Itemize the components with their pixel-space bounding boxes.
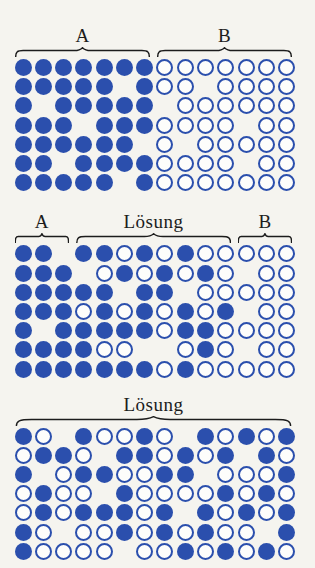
filled-particle [96,284,113,301]
filled-particle [55,341,72,358]
particle-site [155,244,175,263]
open-particle [258,245,275,262]
filled-particle [197,524,214,541]
particle-site [256,173,276,192]
empty-site [114,542,134,561]
empty-site [195,465,215,484]
filled-particle [177,543,194,560]
open-particle [177,155,194,172]
filled-particle [35,155,52,172]
filled-particle [15,265,32,282]
open-particle [197,174,214,191]
particle-site [236,173,256,192]
open-particle [75,524,92,541]
open-particle [258,78,275,95]
particle-site [54,77,74,96]
particle-site [114,96,134,115]
particle-site [54,321,74,340]
open-particle [136,485,153,502]
open-particle [217,174,234,191]
filled-particle [197,341,214,358]
particle-site [195,135,215,154]
open-particle [156,136,173,153]
filled-particle [197,322,214,339]
particle-site [276,154,296,173]
particle-site [54,96,74,115]
empty-site [33,321,53,340]
particle-site [114,484,134,503]
particle-site [216,58,236,77]
particle-site [114,154,134,173]
empty-site [94,446,114,465]
open-particle [217,341,234,358]
open-particle [136,543,153,560]
particle-site [256,302,276,321]
filled-particle [217,447,234,464]
open-particle [15,504,32,521]
open-particle [177,117,194,134]
particle-site [155,446,175,465]
particle-site [236,427,256,446]
particle-site [94,359,114,378]
empty-site [236,302,256,321]
particle-site [114,321,134,340]
open-particle [258,284,275,301]
filled-particle [136,284,153,301]
particle-site [256,77,276,96]
open-particle [96,265,113,282]
filled-particle [55,97,72,114]
filled-particle [116,524,133,541]
region-label: A [15,211,69,233]
particle-site [195,321,215,340]
filled-particle [75,322,92,339]
particle-site [54,465,74,484]
filled-particle [96,303,113,320]
open-particle [238,78,255,95]
particle-site [13,465,33,484]
empty-site [114,77,134,96]
open-particle [55,466,72,483]
particle-site [195,446,215,465]
region-label: A [15,25,150,47]
open-particle [278,447,295,464]
particle-site [74,154,94,173]
particle-site [114,58,134,77]
filled-particle [116,485,133,502]
particle-site [276,321,296,340]
particle-site [195,96,215,115]
particle-site [135,427,155,446]
particle-site [256,542,276,561]
particle-site [54,484,74,503]
particle-site [135,359,155,378]
particle-site [216,264,236,283]
region-label: Lösung [76,211,231,233]
empty-site [155,340,175,359]
open-particle [278,361,295,378]
open-particle [197,361,214,378]
filled-particle [278,428,295,445]
filled-particle [35,447,52,464]
particle-site [135,446,155,465]
filled-particle [136,303,153,320]
filled-particle [116,447,133,464]
particle-site [54,340,74,359]
particle-site [276,484,296,503]
empty-site [114,283,134,302]
filled-particle [217,303,234,320]
particle-site [216,116,236,135]
filled-particle [35,78,52,95]
particle-site [256,135,276,154]
particle-site [114,465,134,484]
filled-particle [55,117,72,134]
open-particle [278,303,295,320]
particle-site [54,446,74,465]
open-particle [217,428,234,445]
particle-site [13,283,33,302]
particle-site [195,503,215,522]
particle-site [74,484,94,503]
open-particle [278,174,295,191]
particle-row [13,321,297,340]
particle-site [135,484,155,503]
particle-site [276,542,296,561]
filled-particle [116,265,133,282]
